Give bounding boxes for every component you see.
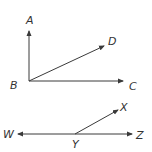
point-label-a: A — [25, 14, 34, 27]
point-label-x: X — [119, 101, 128, 114]
point-label-b: B — [10, 79, 18, 92]
point-label-w: W — [3, 128, 15, 141]
ray-bd — [29, 46, 104, 81]
point-label-d: D — [108, 35, 116, 48]
figure-line-wz: X W Z Y — [3, 101, 144, 151]
ray-yx — [75, 110, 118, 134]
point-label-y: Y — [72, 138, 80, 151]
figure-angle-abc: A D B C — [10, 14, 137, 93]
geometry-rays-diagram: A D B C X W Z Y — [0, 0, 152, 152]
point-label-c: C — [129, 80, 137, 93]
point-label-z: Z — [135, 129, 144, 142]
